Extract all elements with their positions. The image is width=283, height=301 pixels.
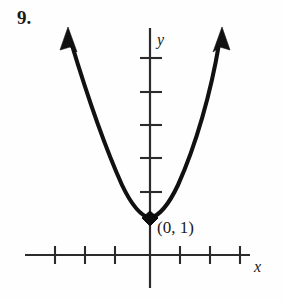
parabola-graph: y x bbox=[0, 0, 283, 301]
x-axis-label: x bbox=[253, 258, 261, 275]
figure-container: 9. y x (0, 1) bbox=[0, 0, 283, 301]
vertex-coordinate-label: (0, 1) bbox=[157, 219, 194, 236]
left-arrowhead-icon bbox=[60, 27, 77, 52]
y-axis-label: y bbox=[155, 31, 165, 49]
right-arrowhead-icon bbox=[213, 27, 230, 52]
